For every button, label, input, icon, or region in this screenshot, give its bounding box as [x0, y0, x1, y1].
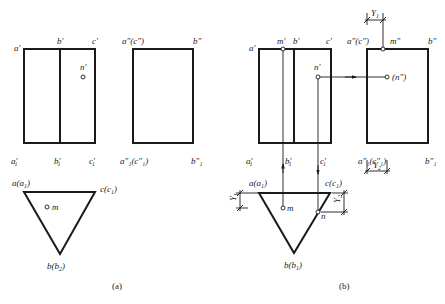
top-view-b: m n a(a1) c(c1) b(b1) Y1 Y2: [228, 178, 348, 271]
label-m: m: [287, 203, 294, 213]
svg-text:Y1: Y1: [371, 8, 379, 19]
label-m-double-prime: m": [390, 36, 400, 46]
side-rect: [133, 49, 193, 143]
label-a1-prime: a'1: [246, 156, 254, 167]
point-m-prime: [281, 47, 285, 51]
point-n-prime: [81, 75, 85, 79]
point-n: [316, 210, 320, 214]
label-b-double-prime: b": [428, 36, 437, 46]
svg-text:Y2: Y2: [332, 195, 343, 203]
label-a-a1: a(a1): [249, 178, 267, 189]
point-m: [281, 206, 285, 210]
panel-a: a' b' c' n' a'1 b'1 c'1 a"(c") b" a″₁(c″…: [11, 36, 202, 291]
label-b-b1: b(b1): [284, 260, 302, 271]
label-c1-prime: c'1: [320, 156, 327, 167]
label-a1-c1-double-prime: a″₁(c″₁): [120, 156, 148, 166]
label-b1-double-prime: b″₁: [191, 156, 202, 166]
side-view-b: a"(c") m" b" (n") a″₁(c″₁) b″₁ Y1: [347, 8, 437, 174]
label-c-prime: c': [326, 36, 333, 46]
label-c-prime: c': [92, 36, 99, 46]
label-b1-prime: b'1: [54, 156, 62, 167]
label-a-prime: a': [14, 43, 22, 53]
label-m-prime: m': [277, 36, 286, 46]
label-n-prime: n': [314, 62, 322, 72]
label-c-c1: c(c1): [325, 178, 342, 189]
caption-b: (b): [339, 281, 350, 291]
label-a-a1: a(a1): [12, 178, 30, 189]
label-n-prime: n': [80, 62, 88, 72]
label-c-c1: c(c1): [100, 184, 117, 195]
label-a-c-double-prime: a"(c"): [347, 36, 369, 46]
label-n: n: [321, 211, 326, 221]
label-b-prime: b': [57, 36, 65, 46]
top-view-a: m a(a1) c(c1) b(b2): [12, 178, 117, 272]
point-m-double-prime: [381, 47, 385, 51]
label-b-double-prime: b": [193, 36, 202, 46]
panel-b: a' m' b' c' n' a'1 b'1 c'1 a"(c") m" b" …: [228, 8, 437, 291]
caption-a: (a): [112, 281, 122, 291]
label-b-prime: b': [293, 36, 301, 46]
label-a1-prime: a'1: [11, 156, 19, 167]
triangle: [24, 192, 95, 254]
front-view-b: a' m' b' c' n' a'1 b'1 c'1: [246, 36, 386, 212]
label-a-prime: a': [249, 43, 257, 53]
point-n-double-prime: [385, 75, 389, 79]
dimension-y1-top: Y1: [228, 190, 258, 211]
front-view-a: a' b' c' n' a'1 b'1 c'1: [11, 36, 99, 167]
side-view-a: a"(c") b" a″₁(c″₁) b″₁: [120, 36, 202, 166]
point-m: [45, 205, 49, 209]
triangle: [259, 193, 330, 253]
side-rect: [367, 49, 428, 143]
label-n-double-prime: (n"): [392, 72, 406, 82]
label-b-b2: b(b2): [47, 261, 65, 272]
label-c1-prime: c'1: [89, 156, 96, 167]
label-b1-double-prime: b″₁: [425, 156, 436, 166]
svg-text:Y1: Y1: [228, 193, 239, 201]
label-a-c-double-prime: a"(c"): [122, 36, 144, 46]
projection-diagram: a' b' c' n' a'1 b'1 c'1 a"(c") b" a″₁(c″…: [0, 0, 445, 304]
label-b1-prime: b'1: [285, 156, 293, 167]
label-m: m: [52, 202, 59, 212]
point-n-prime: [316, 75, 320, 79]
